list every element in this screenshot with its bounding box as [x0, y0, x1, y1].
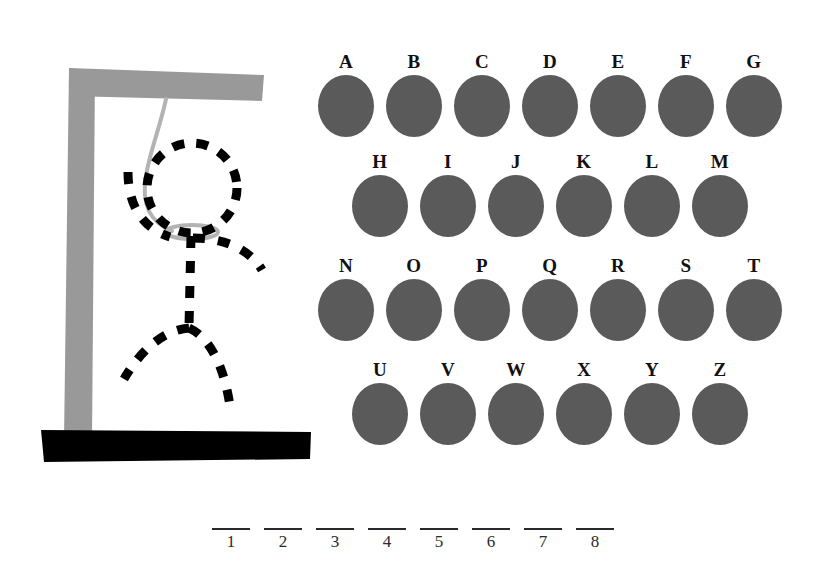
letter-button-k[interactable]: K — [550, 152, 618, 252]
letter-button-l[interactable]: L — [618, 152, 686, 252]
letter-disc[interactable] — [624, 383, 680, 445]
letter-disc[interactable] — [420, 383, 476, 445]
answer-blank-2[interactable]: 2 — [257, 528, 309, 552]
letter-label: X — [577, 360, 591, 380]
letter-button-d[interactable]: D — [516, 52, 584, 152]
letter-disc[interactable] — [726, 279, 782, 341]
hangman-game-screen: A B C D E F G — [0, 0, 833, 567]
blank-line — [420, 528, 458, 530]
letter-label: O — [406, 256, 421, 276]
letter-label: H — [372, 152, 387, 172]
letter-disc[interactable] — [352, 175, 408, 237]
letter-button-o[interactable]: O — [380, 256, 448, 356]
letter-label: D — [543, 52, 557, 72]
answer-blank-4[interactable]: 4 — [361, 528, 413, 552]
stick-figure — [0, 0, 330, 480]
letter-button-r[interactable]: R — [584, 256, 652, 356]
answer-blank-3[interactable]: 3 — [309, 528, 361, 552]
letter-disc[interactable] — [556, 383, 612, 445]
alphabet-grid: A B C D E F G — [312, 52, 812, 452]
letter-disc[interactable] — [386, 279, 442, 341]
figure-head-icon — [147, 143, 237, 233]
letter-label: L — [645, 152, 658, 172]
letter-label: J — [511, 152, 521, 172]
gallows-panel — [0, 0, 330, 480]
figure-right-leg-icon — [189, 328, 231, 414]
letter-label: U — [373, 360, 387, 380]
letter-button-y[interactable]: Y — [618, 360, 686, 460]
answer-blank-5[interactable]: 5 — [413, 528, 465, 552]
letter-button-v[interactable]: V — [414, 360, 482, 460]
letter-disc[interactable] — [352, 383, 408, 445]
letter-label: Y — [645, 360, 659, 380]
letter-button-c[interactable]: C — [448, 52, 516, 152]
blank-number: 8 — [591, 532, 600, 552]
letter-button-b[interactable]: B — [380, 52, 448, 152]
letter-button-z[interactable]: Z — [686, 360, 754, 460]
letter-label: Z — [713, 360, 726, 380]
letter-disc[interactable] — [318, 279, 374, 341]
letter-label: A — [339, 52, 353, 72]
letter-button-q[interactable]: Q — [516, 256, 584, 356]
alphabet-row-1: A B C D E F G — [312, 52, 788, 152]
alphabet-row-2: H I J K L M — [346, 152, 754, 252]
letter-label: Q — [542, 256, 557, 276]
letter-disc[interactable] — [522, 279, 578, 341]
letter-disc[interactable] — [590, 279, 646, 341]
letter-disc[interactable] — [454, 75, 510, 137]
answer-blank-6[interactable]: 6 — [465, 528, 517, 552]
letter-label: M — [711, 152, 729, 172]
letter-disc[interactable] — [658, 75, 714, 137]
alphabet-row-3: N O P Q R S T — [312, 256, 788, 356]
letter-button-j[interactable]: J — [482, 152, 550, 252]
letter-button-p[interactable]: P — [448, 256, 516, 356]
letter-button-a[interactable]: A — [312, 52, 380, 152]
letter-disc[interactable] — [318, 75, 374, 137]
alphabet-row-4: U V W X Y Z — [346, 360, 754, 460]
letter-button-t[interactable]: T — [720, 256, 788, 356]
letter-disc[interactable] — [386, 75, 442, 137]
letter-button-u[interactable]: U — [346, 360, 414, 460]
letter-label: I — [444, 152, 452, 172]
letter-disc[interactable] — [454, 279, 510, 341]
letter-disc[interactable] — [624, 175, 680, 237]
letter-label: B — [407, 52, 420, 72]
letter-disc[interactable] — [590, 75, 646, 137]
letter-disc[interactable] — [726, 75, 782, 137]
letter-disc[interactable] — [488, 175, 544, 237]
blank-line — [472, 528, 510, 530]
blank-line — [524, 528, 562, 530]
letter-label: F — [680, 52, 692, 72]
answer-blank-1[interactable]: 1 — [205, 528, 257, 552]
letter-label: G — [746, 52, 761, 72]
blank-number: 1 — [227, 532, 236, 552]
letter-label: C — [475, 52, 489, 72]
letter-button-x[interactable]: X — [550, 360, 618, 460]
letter-disc[interactable] — [522, 75, 578, 137]
letter-disc[interactable] — [658, 279, 714, 341]
blank-line — [576, 528, 614, 530]
blank-number: 7 — [539, 532, 548, 552]
letter-button-s[interactable]: S — [652, 256, 720, 356]
letter-button-m[interactable]: M — [686, 152, 754, 252]
blank-number: 3 — [331, 532, 340, 552]
letter-disc[interactable] — [488, 383, 544, 445]
letter-button-e[interactable]: E — [584, 52, 652, 152]
letter-button-g[interactable]: G — [720, 52, 788, 152]
letter-disc[interactable] — [420, 175, 476, 237]
blank-number: 6 — [487, 532, 496, 552]
letter-disc[interactable] — [692, 383, 748, 445]
letter-disc[interactable] — [556, 175, 612, 237]
blank-line — [316, 528, 354, 530]
answer-blank-8[interactable]: 8 — [569, 528, 621, 552]
letter-label: W — [506, 360, 526, 380]
letter-button-w[interactable]: W — [482, 360, 550, 460]
letter-label: E — [611, 52, 624, 72]
letter-button-i[interactable]: I — [414, 152, 482, 252]
letter-label: N — [339, 256, 353, 276]
answer-blank-7[interactable]: 7 — [517, 528, 569, 552]
letter-button-h[interactable]: H — [346, 152, 414, 252]
letter-button-f[interactable]: F — [652, 52, 720, 152]
letter-disc[interactable] — [692, 175, 748, 237]
letter-button-n[interactable]: N — [312, 256, 380, 356]
